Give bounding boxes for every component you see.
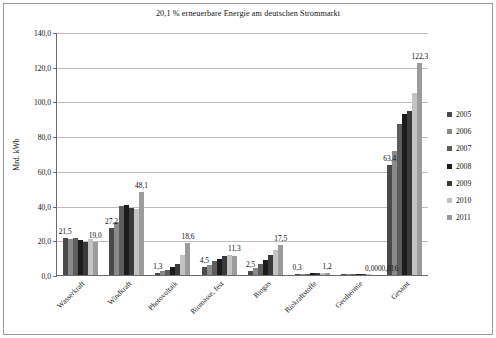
bar-data-label: 0,000	[365, 264, 382, 273]
bar-data-label: 11,3	[228, 244, 241, 253]
bar-data-label: 19,0	[89, 231, 102, 240]
legend-item[interactable]: 2008	[447, 158, 493, 175]
bar-data-label: 1,3	[153, 262, 162, 271]
chart-screenshot: 20,1 % erneuerbare Energie am deutschen …	[0, 0, 496, 338]
bar	[232, 256, 237, 275]
y-axis-tick-label: 100,0	[34, 98, 51, 107]
bar	[366, 274, 371, 275]
bar-groups: 21,519,0Wasserkraft27,248,1Windkraft1,31…	[57, 33, 428, 275]
legend-label: 2010	[456, 196, 471, 205]
y-axis-tick-label: 20,0	[38, 237, 51, 246]
bar	[93, 242, 98, 275]
bar-data-label: 63,4	[383, 154, 396, 163]
bar-data-label: 27,2	[105, 217, 118, 226]
legend-swatch	[447, 181, 452, 186]
y-axis-tick-label: 60,0	[38, 167, 51, 176]
legend-label: 2009	[456, 179, 471, 188]
bar-group: 0,31,2Biokraftstoffe	[289, 33, 335, 275]
bar-data-label: 48,1	[135, 181, 148, 190]
legend-item[interactable]: 2009	[447, 175, 493, 192]
chart-title: 20,1 % erneuerbare Energie am deutschen …	[0, 9, 496, 18]
legend-label: 2011	[456, 213, 471, 222]
bar-group: 0,000Geothermie	[335, 33, 381, 275]
y-axis-title-text: Mrd. kWh	[12, 138, 21, 170]
legend-label: 2007	[456, 144, 471, 153]
legend-label: 2008	[456, 162, 471, 171]
bar	[185, 243, 190, 275]
legend-item[interactable]: 2010	[447, 192, 493, 209]
plot-area: 0,020,040,060,080,0100,0120,0140,0 21,51…	[56, 33, 428, 276]
bar-data-label: 4,5	[200, 256, 209, 265]
legend-item[interactable]: 2006	[447, 123, 493, 140]
bar	[325, 273, 330, 275]
y-axis-title: Mrd. kWh	[9, 33, 23, 276]
bar-group-bars	[341, 33, 376, 275]
legend-swatch	[447, 129, 452, 134]
bar-group: 0,01663,4122,3Gesamt	[382, 33, 428, 275]
bar-data-label: 17,5	[274, 234, 287, 243]
legend-swatch	[447, 146, 452, 151]
y-axis-tick-label: 0,0	[42, 272, 52, 281]
y-axis-tick	[53, 276, 57, 277]
legend-swatch	[447, 215, 452, 220]
y-axis-tick-label: 80,0	[38, 133, 51, 142]
bar	[139, 192, 144, 275]
bar-group-bars	[202, 33, 237, 275]
y-axis-tick-label: 120,0	[34, 63, 51, 72]
bar-data-label: 18,6	[181, 232, 194, 241]
y-axis-tick-label: 140,0	[34, 29, 51, 38]
bar	[278, 245, 283, 275]
bar-group: 2,517,5Biogas	[243, 33, 289, 275]
bar-data-label: 21,5	[59, 227, 72, 236]
y-axis-tick-label: 40,0	[38, 202, 51, 211]
legend-item[interactable]: 2005	[447, 106, 493, 123]
legend-item[interactable]: 2011	[447, 209, 493, 226]
bar	[417, 63, 422, 275]
bar-data-label: 1,2	[322, 262, 331, 271]
legend-swatch	[447, 198, 452, 203]
bar-group: 21,519,0Wasserkraft	[57, 33, 103, 275]
bar-group: 1,318,6Photovoltaik	[150, 33, 196, 275]
bar-group-bars	[109, 33, 144, 275]
bar-group: 27,248,1Windkraft	[103, 33, 149, 275]
bar-data-label: 122,3	[411, 52, 428, 61]
chart-legend: 2005200620072008200920102011	[447, 106, 493, 226]
legend-label: 2006	[456, 127, 471, 136]
bar-data-label: 2,5	[246, 260, 255, 269]
legend-swatch	[447, 112, 452, 117]
legend-item[interactable]: 2007	[447, 140, 493, 157]
bar-data-label: 0,3	[292, 263, 301, 272]
legend-label: 2005	[456, 110, 471, 119]
bar-group-bars	[295, 33, 330, 275]
legend-swatch	[447, 164, 452, 169]
bar-group: 4,511,3Biomasse, fest	[196, 33, 242, 275]
bar-data-label: 0,016	[381, 264, 398, 273]
